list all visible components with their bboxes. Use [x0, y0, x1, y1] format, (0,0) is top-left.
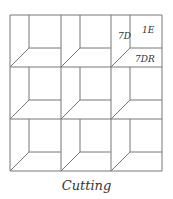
- block-diagonal: [111, 48, 130, 67]
- block-diagonal: [10, 100, 29, 119]
- diagram-caption: Cutting: [0, 178, 173, 193]
- block-diagonal: [61, 152, 80, 171]
- piece-label: 7D: [118, 31, 131, 41]
- block-diagonal: [111, 152, 130, 171]
- block-diagonal: [111, 100, 130, 119]
- piece-label: 1E: [142, 25, 155, 35]
- block-diagonal: [61, 48, 80, 67]
- piece-label: 7DR: [135, 54, 155, 64]
- block-diagonal: [61, 100, 80, 119]
- block-diagonal: [10, 152, 29, 171]
- block-diagonal: [10, 48, 29, 67]
- quilt-block-diagram: 7D1E7DR: [0, 0, 173, 199]
